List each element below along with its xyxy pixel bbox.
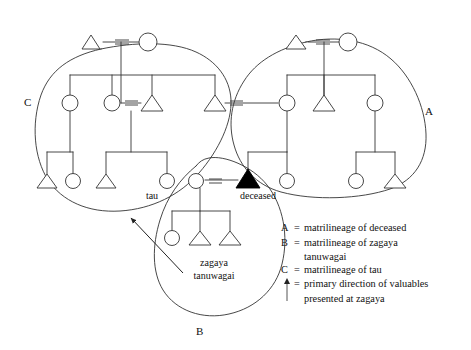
kin-symbol-male [313, 95, 335, 111]
legend-equals-a: = [294, 222, 304, 233]
lineage-label-b: B [196, 325, 204, 337]
legend-equals-c: = [294, 264, 304, 275]
kin-symbol-male [37, 174, 57, 188]
kin-label-zagaya-line1: zagaya [193, 257, 234, 270]
kin-symbol-female [349, 174, 364, 189]
kin-symbol-male [384, 174, 406, 188]
kin-symbol-male [82, 35, 100, 49]
kin-symbol-male [219, 231, 241, 245]
kin-symbol-female [339, 33, 357, 51]
kin-symbol-male [204, 95, 226, 111]
kin-symbol-male [141, 95, 163, 111]
lineage-label-c: C [24, 96, 32, 108]
legend-row-b: B = matrilineage of zagaya [281, 237, 471, 250]
kin-symbol-female [165, 231, 180, 246]
legend: A = matrilineage of deceased B = matrili… [281, 222, 471, 305]
kin-symbol-male [189, 231, 211, 245]
lineage-enclosure-a [231, 39, 426, 198]
legend-row-a: A = matrilineage of deceased [281, 222, 471, 235]
kinship-diagram-figure: C A B tau deceased zagaya tanuwagai A = … [0, 0, 471, 350]
legend-row-arrow: = primary direction of valuables [281, 278, 471, 291]
kin-symbol-female [280, 174, 295, 189]
legend-text-a: matrilineage of deceased [304, 222, 471, 233]
kin-symbol-female [104, 95, 120, 111]
kin-symbol-male [96, 174, 116, 188]
lineage-label-a: A [425, 105, 433, 117]
kin-symbol-female-widow [189, 174, 204, 189]
legend-key-a: A [281, 222, 294, 233]
legend-text-c: matrilineage of tau [304, 264, 471, 275]
kin-symbol-male [286, 35, 306, 49]
legend-key-c: C [281, 264, 294, 275]
kin-label-tau: tau [146, 190, 158, 201]
arrow-up-icon [281, 278, 294, 291]
kin-symbol-female [62, 95, 78, 111]
legend-equals-b: = [294, 237, 304, 248]
kin-label-zagaya-line2: tanuwagai [193, 270, 234, 283]
legend-text-b: matrilineage of zagaya [304, 237, 471, 248]
legend-text-b-continuation: tanuwagai [304, 251, 471, 262]
kin-symbol-female [66, 174, 81, 189]
kin-label-deceased: deceased [240, 190, 276, 201]
kin-label-zagaya-tanuwagai: zagaya tanuwagai [193, 257, 234, 282]
legend-text-arrow-continuation: presented at zagaya [304, 293, 471, 304]
kin-symbol-female [367, 95, 383, 111]
valuables-direction-arrow-icon [131, 218, 183, 273]
legend-text-arrow: primary direction of valuables [304, 278, 471, 289]
kin-symbol-female [139, 33, 157, 51]
kin-symbol-deceased-male [236, 169, 260, 188]
legend-row-c: C = matrilineage of tau [281, 264, 471, 277]
legend-key-b: B [281, 237, 294, 248]
kin-symbol-female-tau [160, 174, 175, 189]
kin-symbol-female [279, 95, 295, 111]
legend-equals-arrow: = [294, 278, 304, 289]
